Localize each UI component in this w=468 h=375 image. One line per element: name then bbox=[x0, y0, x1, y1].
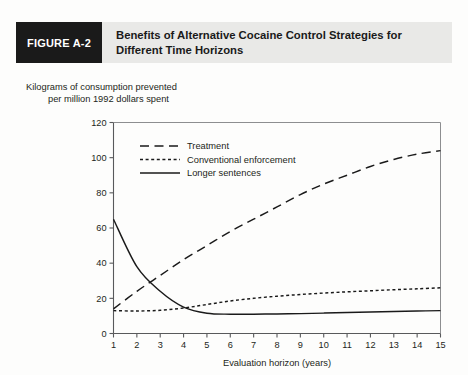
y-tick-label: 100 bbox=[91, 153, 106, 163]
x-tick-label: 15 bbox=[435, 340, 445, 350]
x-tick-label: 8 bbox=[274, 340, 279, 350]
chart-legend: TreatmentConventional enforcementLonger … bbox=[140, 141, 296, 178]
x-tick-label: 7 bbox=[251, 340, 256, 350]
x-tick-label: 12 bbox=[365, 340, 375, 350]
series-line-treatment bbox=[114, 151, 441, 309]
y-axis-tick-labels: 020406080100120 bbox=[91, 118, 106, 339]
chart-container: 020406080100120 123456789101112131415 Tr… bbox=[0, 0, 468, 375]
line-chart: 020406080100120 123456789101112131415 Tr… bbox=[0, 0, 468, 375]
x-tick-label: 14 bbox=[412, 340, 422, 350]
x-axis-tick-labels: 123456789101112131415 bbox=[111, 340, 446, 350]
x-tick-label: 10 bbox=[319, 340, 329, 350]
x-tick-label: 4 bbox=[181, 340, 186, 350]
data-series-group bbox=[114, 151, 441, 315]
y-tick-label: 60 bbox=[96, 223, 106, 233]
legend-label-treatment: Treatment bbox=[187, 141, 229, 151]
y-axis-ticks bbox=[110, 123, 114, 334]
y-tick-label: 120 bbox=[91, 118, 106, 128]
x-axis-title: Evaluation horizon (years) bbox=[223, 358, 331, 368]
x-tick-label: 9 bbox=[298, 340, 303, 350]
legend-label-longer-sentences: Longer sentences bbox=[187, 168, 261, 178]
x-tick-label: 6 bbox=[228, 340, 233, 350]
x-tick-label: 1 bbox=[111, 340, 116, 350]
x-tick-label: 5 bbox=[204, 340, 209, 350]
y-tick-label: 40 bbox=[96, 258, 106, 268]
x-axis-ticks bbox=[114, 334, 441, 338]
legend-label-conventional-enforcement: Conventional enforcement bbox=[187, 155, 296, 165]
x-tick-label: 3 bbox=[158, 340, 163, 350]
y-tick-label: 20 bbox=[96, 294, 106, 304]
series-line-conventional-enforcement bbox=[114, 288, 441, 311]
y-tick-label: 0 bbox=[101, 329, 106, 339]
x-tick-label: 2 bbox=[134, 340, 139, 350]
x-tick-label: 11 bbox=[342, 340, 352, 350]
series-line-longer-sentences bbox=[114, 219, 441, 314]
y-tick-label: 80 bbox=[96, 188, 106, 198]
figure-page: FIGURE A-2 Benefits of Alternative Cocai… bbox=[0, 0, 468, 375]
x-tick-label: 13 bbox=[389, 340, 399, 350]
